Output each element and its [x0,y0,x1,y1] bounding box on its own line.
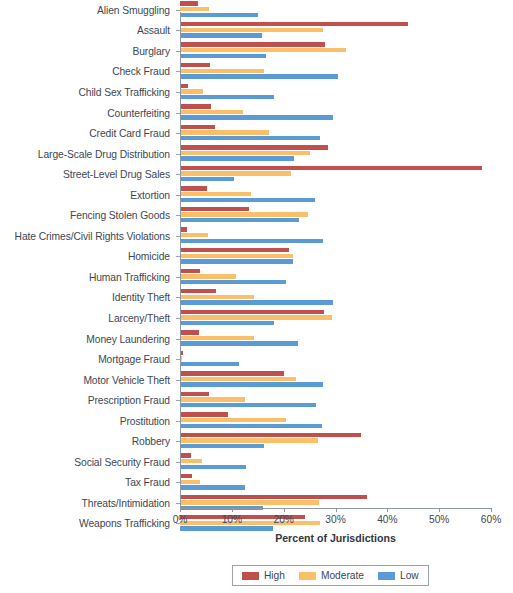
bar-high [180,145,328,149]
category-label: Alien Smuggling [0,5,176,16]
bar-moderate [180,377,296,381]
chart-category-row: Motor Vehicle Theft [0,370,513,391]
chart-category-row: Burglary [0,41,513,62]
bar-high [180,248,289,252]
chart-legend: HighModerateLow [232,565,429,586]
bar-moderate [180,500,319,504]
x-axis-tick-label: 40% [377,514,397,525]
category-label: Burglary [0,46,176,57]
category-label: Tax Fraud [0,477,176,488]
x-axis-tick [387,508,388,512]
category-label: Mortgage Fraud [0,354,176,365]
legend-label: High [264,570,285,581]
bar-high [180,227,187,231]
bar-moderate [180,48,346,52]
legend-item-high[interactable]: High [242,570,285,581]
category-label: Weapons Trafficking [0,518,176,529]
bar-high [180,207,249,211]
bar-group [180,431,513,452]
bar-low [180,95,274,99]
category-label: Credit Card Fraud [0,128,176,139]
bar-high [180,412,228,416]
category-label: Money Laundering [0,334,176,345]
bar-group [180,370,513,391]
bar-high [180,310,324,314]
bar-low [180,341,298,345]
bar-group [180,82,513,103]
bar-moderate [180,480,200,484]
bar-moderate [180,418,286,422]
chart-category-row: Robbery [0,431,513,452]
category-label: Robbery [0,436,176,447]
bar-group [180,247,513,268]
bar-low [180,403,316,407]
bar-group [180,41,513,62]
bar-high [180,166,482,170]
chart-category-row: Credit Card Fraud [0,123,513,144]
category-label: Extortion [0,190,176,201]
category-label: Prostitution [0,416,176,427]
legend-item-moderate[interactable]: Moderate [299,570,364,581]
chart-category-row: Prostitution [0,411,513,432]
x-axis-tick [180,508,181,512]
bar-low [180,115,333,119]
x-axis-title: Percent of Jurisdictions [180,532,491,544]
bar-low [180,300,333,304]
legend-swatch-icon [242,572,259,580]
chart-category-row: Threats/Intimidation [0,493,513,514]
bar-moderate [180,89,203,93]
bar-low [180,444,264,448]
x-axis-tick [232,508,233,512]
bar-group [180,0,513,21]
legend-label: Moderate [321,570,364,581]
bar-low [180,526,273,530]
chart-category-row: Street-Level Drug Sales [0,164,513,185]
bar-moderate [180,233,208,237]
bar-low [180,136,320,140]
chart-category-row: Prescription Fraud [0,390,513,411]
x-axis-tick [491,508,492,512]
bar-group [180,103,513,124]
bar-group [180,205,513,226]
bar-low [180,465,246,469]
category-label: Threats/Intimidation [0,498,176,509]
category-label: Child Sex Trafficking [0,87,176,98]
chart-category-row: Hate Crimes/Civil Rights Violations [0,226,513,247]
bar-group [180,288,513,309]
bar-moderate [180,69,264,73]
bar-high [180,269,200,273]
bar-high [180,474,192,478]
bar-moderate [180,274,236,278]
bar-low [180,424,322,428]
category-label: Check Fraud [0,66,176,77]
horizontal-grouped-bar-chart: Alien SmugglingAssaultBurglaryCheck Frau… [0,0,513,593]
bar-moderate [180,7,209,11]
bar-low [180,13,258,17]
x-axis-tick [284,508,285,512]
category-rows: Alien SmugglingAssaultBurglaryCheck Frau… [0,0,513,534]
plot-area: Alien SmugglingAssaultBurglaryCheck Frau… [0,0,513,535]
bar-low [180,218,299,222]
bar-high [180,289,216,293]
x-axis-tick-label: 10% [222,514,242,525]
bar-low [180,259,293,263]
y-axis-line [180,12,181,508]
bar-low [180,33,262,37]
bar-low [180,280,286,284]
category-label: Social Security Fraud [0,457,176,468]
bar-high [180,495,367,499]
legend-swatch-icon [378,572,395,580]
category-label: Larceny/Theft [0,313,176,324]
bar-group [180,493,513,514]
category-label: Counterfeiting [0,108,176,119]
bar-moderate [180,254,293,258]
bar-group [180,123,513,144]
bar-low [180,485,245,489]
bar-group [180,452,513,473]
category-label: Identity Theft [0,292,176,303]
x-axis-tick [336,508,337,512]
bar-moderate [180,130,269,134]
legend-item-low[interactable]: Low [378,570,419,581]
bar-low [180,156,294,160]
legend-label: Low [400,570,419,581]
